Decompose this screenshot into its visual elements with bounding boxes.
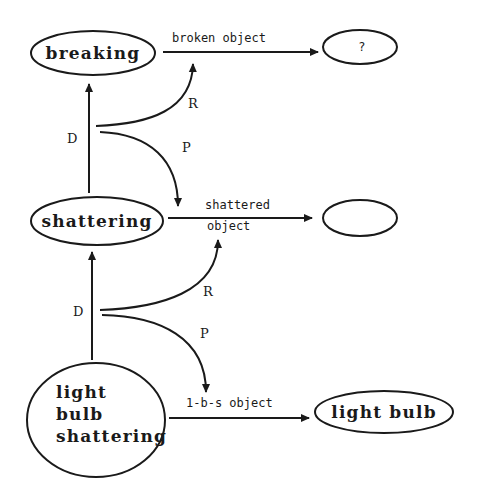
node-light-bulb-shattering-line1: light: [56, 382, 107, 402]
relation-lower-d-label: D: [73, 304, 83, 319]
edge-lbs-object: 1-b-s object: [169, 396, 309, 418]
node-light-bulb-shattering-line3: shattering: [56, 426, 167, 446]
relation-upper-p: P: [100, 132, 191, 206]
node-light-bulb: light bulb: [315, 391, 453, 433]
node-breaking: breaking: [31, 31, 155, 75]
relation-upper-d: D: [67, 84, 89, 193]
edge-lbs-object-label: 1-b-s object: [186, 396, 273, 410]
edge-shattered-object: shattered object: [168, 198, 312, 233]
node-light-bulb-label: light bulb: [331, 402, 437, 422]
relation-upper-r-label: R: [188, 96, 199, 111]
node-shattering-label: shattering: [41, 211, 152, 231]
edge-shattered-object-label-line1: shattered: [205, 198, 270, 212]
edge-shattered-object-label-line2: object: [207, 219, 250, 233]
edge-broken-object-label: broken object: [172, 31, 266, 45]
node-unknown-result-label: ?: [359, 40, 365, 54]
concept-diagram: breaking broken object ? D R P shatterin…: [0, 0, 477, 486]
relation-upper-d-label: D: [67, 131, 77, 146]
node-unknown-result: ?: [323, 30, 397, 64]
relation-lower-p-label: P: [200, 326, 209, 341]
node-light-bulb-shattering-line2: bulb: [56, 404, 103, 424]
relation-lower-d: D: [73, 252, 92, 360]
node-shattering: shattering: [31, 197, 163, 245]
edge-broken-object: broken object: [163, 31, 318, 52]
node-breaking-label: breaking: [46, 43, 141, 63]
node-light-bulb-shattering: light bulb shattering: [27, 363, 167, 477]
relation-upper-p-label: P: [182, 140, 191, 155]
relation-lower-r: R: [100, 240, 218, 310]
node-empty-result: [323, 200, 397, 236]
relation-lower-r-label: R: [203, 284, 214, 299]
